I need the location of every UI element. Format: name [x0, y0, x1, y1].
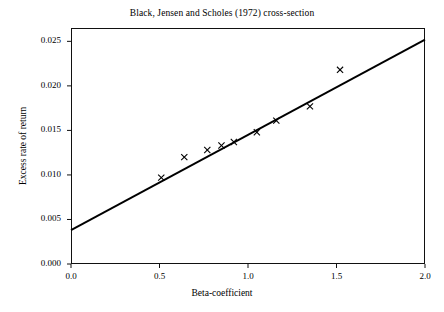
- y-axis-tick-label: 0.010: [5, 169, 61, 179]
- chart-figure: Black, Jensen and Scholes (1972) cross-s…: [0, 0, 444, 312]
- y-axis-tick-label: 0.005: [5, 213, 61, 223]
- data-point-marker: [218, 142, 224, 148]
- x-axis-tick-label: 1.5: [317, 271, 357, 281]
- x-axis-tick-label: 0.5: [140, 271, 180, 281]
- chart-canvas: [0, 0, 444, 312]
- regression-line: [71, 40, 425, 231]
- y-axis-tick-label: 0.020: [5, 80, 61, 90]
- x-axis-tick-label: 0.0: [51, 271, 91, 281]
- data-point-marker: [307, 103, 313, 109]
- x-axis-tick-label: 1.0: [228, 271, 268, 281]
- data-point-marker: [181, 154, 187, 160]
- data-point-marker: [158, 175, 164, 181]
- data-point-marker: [204, 147, 210, 153]
- y-axis-tick-label: 0.015: [5, 124, 61, 134]
- data-point-marker: [337, 67, 343, 73]
- y-axis-tick-label: 0.000: [5, 258, 61, 268]
- y-axis-tick-label: 0.025: [5, 35, 61, 45]
- x-axis-tick-label: 2.0: [405, 271, 444, 281]
- x-axis-label: Beta-coefficient: [0, 288, 444, 298]
